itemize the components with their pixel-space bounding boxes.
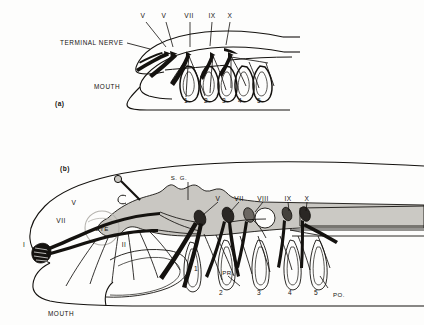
panel-a-body-outline bbox=[127, 31, 300, 110]
panel-a-terminal-leader bbox=[127, 43, 150, 49]
panel-b-anterior-nerve-label-i: I bbox=[23, 241, 25, 248]
panel-a-gill-number-3: 3 bbox=[222, 97, 226, 104]
panel-b-anterior-nerve-label-v: V bbox=[72, 199, 77, 206]
panel-a-nerve-label-vii: VII bbox=[184, 12, 193, 19]
panel-a: V V VII IX X TERMINAL NERVE MOUTH (a) 1 … bbox=[55, 12, 300, 110]
panel-b-eye-label: EYE bbox=[95, 225, 109, 232]
panel-a-nerve-label-ix: IX bbox=[208, 12, 215, 19]
panel-b-gill-number-1: 1 bbox=[194, 265, 198, 272]
panel-b-prebranchial-label: PR. bbox=[222, 269, 234, 276]
panel-b-anterior-nerve-label-ii: II bbox=[122, 241, 126, 248]
panel-a-mouth-label: MOUTH bbox=[94, 83, 120, 90]
panel-b-gill-number-5: 5 bbox=[314, 289, 318, 296]
panel-b-spinal-ganglion-label: S. G. bbox=[171, 174, 187, 181]
panel-b-gill-number-3: 3 bbox=[257, 289, 261, 296]
panel-b-nerve-label-v: V bbox=[216, 195, 221, 202]
panel-a-gill-number-1: 1 bbox=[184, 97, 188, 104]
panel-b-mouth-label: MOUTH bbox=[48, 310, 74, 317]
panel-b-nerve-label-ix: IX bbox=[284, 195, 291, 202]
panel-b-nerve-label-x: X bbox=[305, 195, 310, 202]
panel-b-anterior-nerve-label-vii: VII bbox=[56, 217, 65, 224]
panel-a-gill-number-4: 4 bbox=[238, 97, 242, 104]
cranial-nerve-figure: V V VII IX X TERMINAL NERVE MOUTH (a) 1 … bbox=[0, 0, 424, 325]
panel-b-label: (b) bbox=[60, 165, 70, 173]
panel-b-nerve-label-viii: VIII bbox=[257, 195, 269, 202]
panel-b-cord-lines bbox=[290, 230, 424, 236]
panel-b: (b) S. G. V VII VIII IX X V VII I II EYE… bbox=[23, 162, 424, 317]
panel-b-spinal-cord bbox=[300, 206, 424, 226]
panel-a-nerve-label-x: X bbox=[228, 12, 233, 19]
panel-a-label: (a) bbox=[55, 100, 65, 108]
panel-a-gill-number-2: 2 bbox=[204, 97, 208, 104]
panel-a-nerve-label-v1: V bbox=[141, 12, 146, 19]
panel-b-postbranchial-label: PO. bbox=[333, 291, 345, 298]
panel-b-gill-number-2: 2 bbox=[219, 289, 223, 296]
panel-a-terminal-nerve-label: TERMINAL NERVE bbox=[60, 39, 123, 46]
panel-b-nerve-label-vii: VII bbox=[234, 195, 243, 202]
panel-a-nerve-label-v2: V bbox=[162, 12, 167, 19]
panel-b-gill-number-4: 4 bbox=[288, 289, 292, 296]
panel-a-gill-number-5: 5 bbox=[257, 97, 261, 104]
